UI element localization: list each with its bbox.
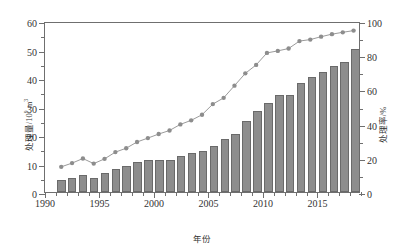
rate-marker-1994 xyxy=(92,161,96,165)
rate-line xyxy=(61,31,353,167)
y-tick-label-left-40: 40 xyxy=(27,75,37,86)
rate-marker-2012 xyxy=(286,46,290,50)
x-tick-2018 xyxy=(350,192,351,196)
y-tick-right-20 xyxy=(359,160,365,161)
rate-marker-1999 xyxy=(146,136,150,140)
x-tick-label-2000: 2000 xyxy=(144,198,164,209)
rate-marker-2000 xyxy=(156,132,160,136)
y-tick-label-left-60: 60 xyxy=(27,18,37,29)
y-tick-label-left-50: 50 xyxy=(27,46,37,57)
x-tick-2014 xyxy=(307,192,308,196)
line-series-layer xyxy=(45,23,359,192)
rate-marker-1998 xyxy=(135,140,139,144)
y-tick-right-0 xyxy=(359,194,365,195)
x-tick-2013 xyxy=(296,192,297,196)
y-tick-label-right-20: 20 xyxy=(367,154,377,165)
y-tick-right-40 xyxy=(359,126,365,127)
x-tick-label-2015: 2015 xyxy=(307,198,327,209)
y-tick-right-100 xyxy=(359,23,365,24)
y-tick-label-right-100: 100 xyxy=(367,18,382,29)
rate-marker-2009 xyxy=(254,63,258,67)
rate-marker-2002 xyxy=(178,122,182,126)
rate-marker-2010 xyxy=(265,51,269,55)
rate-marker-1995 xyxy=(102,157,106,161)
plot-area: 0102030405060020406080100199019952000200… xyxy=(44,22,360,193)
rate-marker-2003 xyxy=(189,118,193,122)
x-tick-2017 xyxy=(339,192,340,196)
y-tick-label-right-40: 40 xyxy=(367,120,377,131)
rate-marker-1993 xyxy=(81,156,85,160)
y-tick-label-left-30: 30 xyxy=(27,103,37,114)
x-tick-label-2005: 2005 xyxy=(198,198,218,209)
y-tick-label-left-20: 20 xyxy=(27,132,37,143)
y-tick-label-right-0: 0 xyxy=(367,189,372,200)
x-tick-1993 xyxy=(78,192,79,196)
rate-marker-1992 xyxy=(70,161,74,165)
rate-marker-2017 xyxy=(341,30,345,34)
y-axis-title-right: 处理率/% xyxy=(376,107,388,143)
rate-marker-2004 xyxy=(200,113,204,117)
x-axis-title: 年份 xyxy=(193,232,211,244)
x-tick-label-1990: 1990 xyxy=(35,198,55,209)
rate-marker-2018 xyxy=(351,28,355,32)
rate-marker-2007 xyxy=(232,84,236,88)
x-tick-2019 xyxy=(361,192,362,196)
y-tick-right-60 xyxy=(359,91,365,92)
y-tick-label-right-80: 80 xyxy=(367,52,377,63)
x-tick-1991 xyxy=(56,192,57,196)
x-tick-1996 xyxy=(110,192,111,196)
rate-marker-1991 xyxy=(59,165,63,169)
chart-figure: 处理量/109 m3 处理率/% 年份 01020304050600204060… xyxy=(0,0,399,250)
x-tick-1998 xyxy=(132,192,133,196)
x-tick-2004 xyxy=(198,192,199,196)
x-tick-2006 xyxy=(219,192,220,196)
x-tick-2002 xyxy=(176,192,177,196)
x-tick-2011 xyxy=(274,192,275,196)
rate-marker-2015 xyxy=(319,35,323,39)
x-tick-1994 xyxy=(89,192,90,196)
rate-marker-2006 xyxy=(221,96,225,100)
x-tick-1997 xyxy=(121,192,122,196)
rate-marker-2001 xyxy=(167,128,171,132)
rate-marker-2016 xyxy=(330,32,334,36)
x-tick-label-1995: 1995 xyxy=(89,198,109,209)
x-tick-1999 xyxy=(143,192,144,196)
y-tick-label-right-60: 60 xyxy=(367,86,377,97)
x-tick-1992 xyxy=(67,192,68,196)
x-tick-2003 xyxy=(187,192,188,196)
x-tick-2009 xyxy=(252,192,253,196)
rate-marker-2008 xyxy=(243,71,247,75)
x-tick-2001 xyxy=(165,192,166,196)
y-tick-right-80 xyxy=(359,57,365,58)
x-tick-2008 xyxy=(241,192,242,196)
rate-marker-2014 xyxy=(308,37,312,41)
rate-marker-1997 xyxy=(124,146,128,150)
y-tick-right-minor xyxy=(359,40,363,41)
x-tick-2007 xyxy=(230,192,231,196)
rate-marker-2013 xyxy=(297,39,301,43)
x-tick-label-2010: 2010 xyxy=(253,198,273,209)
y-tick-label-left-10: 10 xyxy=(27,160,37,171)
x-tick-2016 xyxy=(328,192,329,196)
x-tick-2012 xyxy=(285,192,286,196)
rate-marker-2005 xyxy=(211,102,215,106)
rate-marker-2011 xyxy=(276,49,280,53)
rate-marker-1996 xyxy=(113,150,117,154)
